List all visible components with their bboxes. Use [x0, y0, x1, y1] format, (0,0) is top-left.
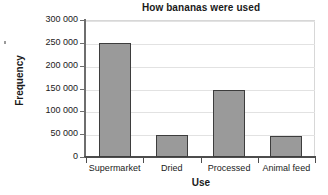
x-tick-label: Processed: [201, 163, 258, 173]
y-tick-mark: [80, 66, 85, 67]
bar: [156, 135, 188, 157]
bar-chart: How bananas were used Frequency Use 050 …: [0, 0, 328, 195]
y-tick-mark: [80, 20, 85, 21]
bar: [213, 90, 245, 157]
y-tick-label: 250 000: [24, 37, 78, 47]
x-tick-label: Dried: [143, 163, 200, 173]
bar: [99, 43, 131, 157]
bar: [270, 136, 302, 157]
y-tick-label: 50 000: [24, 128, 78, 138]
scan-artifact-speck: [4, 41, 6, 44]
chart-title: How bananas were used: [86, 2, 316, 13]
y-tick-label: 0: [24, 151, 78, 161]
y-tick-mark: [80, 43, 85, 44]
y-tick-label: 100 000: [24, 105, 78, 115]
x-tick-label: Animal feed: [258, 163, 315, 173]
y-tick-mark: [80, 157, 85, 158]
y-tick-label: 300 000: [24, 14, 78, 24]
gridline: [86, 21, 315, 22]
y-tick-mark: [80, 111, 85, 112]
x-tick-mark: [315, 158, 316, 163]
y-tick-mark: [80, 89, 85, 90]
y-axis-title: Frequency: [14, 41, 25, 121]
x-axis-title: Use: [86, 177, 316, 188]
y-tick-label: 200 000: [24, 60, 78, 70]
y-tick-label: 150 000: [24, 83, 78, 93]
y-tick-mark: [80, 134, 85, 135]
x-tick-label: Supermarket: [86, 163, 143, 173]
